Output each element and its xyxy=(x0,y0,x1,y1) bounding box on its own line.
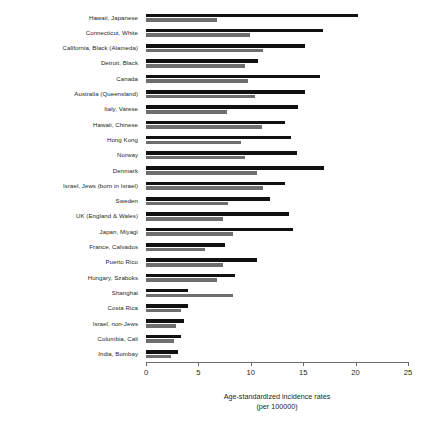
category-label: Hungary, Szaboks xyxy=(0,270,141,285)
bar-upper xyxy=(146,335,181,339)
bar-lower xyxy=(146,49,263,53)
bar-upper xyxy=(146,319,184,323)
bar-lower xyxy=(146,339,174,343)
bar-lower xyxy=(146,232,233,236)
bar-row xyxy=(146,331,408,346)
category-label: Puerto Rico xyxy=(0,255,141,270)
bar-lower xyxy=(146,110,227,114)
category-label: Australia (Queensland) xyxy=(0,86,141,101)
bar-upper xyxy=(146,243,225,247)
bar-row xyxy=(146,224,408,239)
bar-row xyxy=(146,163,408,178)
bar-upper xyxy=(146,75,320,79)
bar-upper xyxy=(146,121,285,125)
bar-row xyxy=(146,86,408,101)
bar-upper xyxy=(146,258,257,262)
bar-row xyxy=(146,56,408,71)
plot-area xyxy=(146,10,408,362)
bar-upper xyxy=(146,59,258,63)
category-label: Japan, Miyagi xyxy=(0,224,141,239)
bar-row xyxy=(146,301,408,316)
bar-upper xyxy=(146,228,293,232)
category-label: Sweden xyxy=(0,194,141,209)
x-axis-tick-label: 20 xyxy=(351,368,359,377)
category-label: Norway xyxy=(0,148,141,163)
x-axis-title: Age-standardized incidence rates (per 10… xyxy=(146,392,408,411)
category-label: Detroit, Black xyxy=(0,56,141,71)
bar-row xyxy=(146,255,408,270)
category-label: Shanghai xyxy=(0,285,141,300)
bar-row xyxy=(146,71,408,86)
bar-lower xyxy=(146,248,205,252)
bar-row xyxy=(146,25,408,40)
bar-row xyxy=(146,347,408,362)
bar-row xyxy=(146,41,408,56)
x-axis-tick xyxy=(303,362,304,366)
category-label: Italy, Varese xyxy=(0,102,141,117)
bar-row xyxy=(146,148,408,163)
x-axis-line xyxy=(146,362,408,363)
incidence-rate-bar-chart: Hawaii, JapaneseConnecticut, WhiteCalifo… xyxy=(0,0,426,432)
bar-upper xyxy=(146,289,188,293)
bar-upper xyxy=(146,182,285,186)
bar-upper xyxy=(146,274,235,278)
x-axis-tick xyxy=(251,362,252,366)
bar-upper xyxy=(146,166,324,170)
bar-lower xyxy=(146,64,245,68)
bar-lower xyxy=(146,278,217,282)
category-label: Hawaii, Chinese xyxy=(0,117,141,132)
bar-upper xyxy=(146,304,188,308)
category-label: Israel, non-Jews xyxy=(0,316,141,331)
bar-upper xyxy=(146,212,289,216)
bar-lower xyxy=(146,355,171,359)
bar-lower xyxy=(146,186,263,190)
bar-upper xyxy=(146,197,270,201)
category-label: Denmark xyxy=(0,163,141,178)
category-label: Israel, Jews (born in Israel) xyxy=(0,178,141,193)
bar-row xyxy=(146,270,408,285)
bar-lower xyxy=(146,79,248,83)
bar-row xyxy=(146,178,408,193)
category-label: Hong Kong xyxy=(0,132,141,147)
category-label: Columbia, Cali xyxy=(0,331,141,346)
x-axis-title-line1: Age-standardized incidence rates xyxy=(224,392,331,401)
bar-lower xyxy=(146,309,181,313)
bar-lower xyxy=(146,294,233,298)
bar-upper xyxy=(146,44,305,48)
bar-row xyxy=(146,102,408,117)
category-label: Canada xyxy=(0,71,141,86)
x-axis-tick xyxy=(198,362,199,366)
category-label: UK (England & Wales) xyxy=(0,209,141,224)
bar-lower xyxy=(146,202,228,206)
x-axis-tick-label: 25 xyxy=(404,368,412,377)
category-label: California, Black (Alameda) xyxy=(0,41,141,56)
bar-lower xyxy=(146,217,223,221)
category-label: Costa Rica xyxy=(0,301,141,316)
bar-row xyxy=(146,194,408,209)
bar-rows xyxy=(146,10,408,362)
bar-row xyxy=(146,285,408,300)
bar-row xyxy=(146,239,408,254)
bar-upper xyxy=(146,350,178,354)
x-axis-tick-label: 5 xyxy=(196,368,200,377)
bar-row xyxy=(146,316,408,331)
bar-upper xyxy=(146,105,298,109)
x-axis-tick-label: 15 xyxy=(299,368,307,377)
bar-upper xyxy=(146,29,323,33)
bar-upper xyxy=(146,151,297,155)
bar-row xyxy=(146,132,408,147)
bar-lower xyxy=(146,324,176,328)
bar-lower xyxy=(146,18,217,22)
bar-lower xyxy=(146,263,223,267)
x-axis-tick-label: 10 xyxy=(247,368,255,377)
category-label: India, Bombay xyxy=(0,347,141,362)
category-label: Connecticut, White xyxy=(0,25,141,40)
bar-lower xyxy=(146,156,245,160)
x-axis-tick xyxy=(356,362,357,366)
bar-lower xyxy=(146,171,257,175)
x-axis-tick xyxy=(146,362,147,366)
bar-lower xyxy=(146,95,255,99)
bar-lower xyxy=(146,141,241,145)
bar-upper xyxy=(146,14,358,18)
category-axis-labels: Hawaii, JapaneseConnecticut, WhiteCalifo… xyxy=(0,10,141,362)
